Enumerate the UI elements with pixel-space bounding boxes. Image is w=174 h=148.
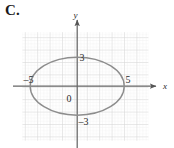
y-tick-label-positive-three: 3 [80, 52, 85, 63]
y-tick-label-negative-three: –3 [78, 116, 89, 127]
origin-label: 0 [67, 93, 72, 104]
y-axis-label: y [73, 10, 78, 20]
ellipse-graph-figure: C. –5 5 3 –3 [0, 0, 174, 148]
x-tick-label-negative-five: –5 [23, 74, 34, 85]
x-axis-label: x [162, 81, 167, 91]
x-tick-label-positive-five: 5 [126, 74, 131, 85]
plot-canvas: –5 5 3 –3 0 x y [0, 0, 174, 148]
